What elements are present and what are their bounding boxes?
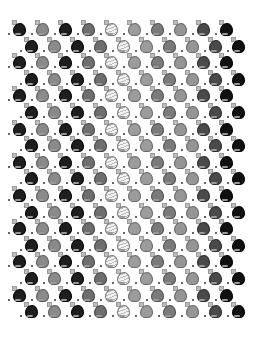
base-icon <box>84 299 90 301</box>
sprite-lightgray-icon <box>169 20 191 38</box>
sprite-black-icon <box>227 103 249 121</box>
dot-icon <box>181 182 183 184</box>
dot-icon <box>215 232 217 234</box>
dot-icon <box>227 282 229 284</box>
base-icon <box>96 182 102 184</box>
base-icon <box>130 199 136 201</box>
base-icon <box>176 133 182 135</box>
dot-icon <box>89 116 91 118</box>
dot-icon <box>77 33 79 35</box>
dot-icon <box>146 33 148 35</box>
base-icon <box>84 133 90 135</box>
dot-icon <box>169 99 171 101</box>
dot-icon <box>204 149 206 151</box>
sprite-black-icon <box>66 169 88 187</box>
dot-icon <box>215 66 217 68</box>
sprite-gray-icon <box>43 136 65 154</box>
sprite-black-icon <box>8 252 30 270</box>
sprite-black-icon <box>54 219 76 237</box>
dot-icon <box>77 99 79 101</box>
base-icon <box>188 116 194 118</box>
sprite-charcoal-icon <box>204 169 226 187</box>
base-icon <box>176 299 182 301</box>
sprite-midgray-icon <box>146 219 168 237</box>
sprite-black-icon <box>66 103 88 121</box>
base-icon <box>73 216 79 218</box>
base-icon <box>211 182 217 184</box>
dot-icon <box>169 199 171 201</box>
sprite-lightgray-icon <box>169 53 191 71</box>
dot-icon <box>158 315 160 317</box>
base-icon <box>61 265 67 267</box>
dot-icon <box>54 99 56 101</box>
dot-icon <box>54 299 56 301</box>
dot-icon <box>146 66 148 68</box>
base-icon <box>96 83 102 85</box>
base-icon <box>61 133 67 135</box>
dot-icon <box>54 166 56 168</box>
base-icon <box>130 166 136 168</box>
dot-icon <box>215 199 217 201</box>
sprite-darkgray-icon <box>89 302 111 320</box>
sprite-darkgray-icon <box>89 269 111 287</box>
base-icon <box>96 116 102 118</box>
sprite-black-icon <box>227 136 249 154</box>
base-icon <box>211 149 217 151</box>
dot-icon <box>192 199 194 201</box>
dot-icon <box>77 232 79 234</box>
sprite-black-icon <box>54 86 76 104</box>
dot-icon <box>158 116 160 118</box>
dot-icon <box>135 50 137 52</box>
dot-icon <box>8 33 10 35</box>
base-icon <box>50 182 56 184</box>
dot-icon <box>158 149 160 151</box>
dot-icon <box>227 249 229 251</box>
sprite-grid <box>0 0 265 340</box>
base-icon <box>234 116 240 118</box>
dot-icon <box>100 133 102 135</box>
dot-icon <box>158 282 160 284</box>
base-icon <box>38 232 44 234</box>
sprite-gray-icon <box>31 219 53 237</box>
dot-icon <box>112 216 114 218</box>
dot-icon <box>215 133 217 135</box>
dot-icon <box>135 216 137 218</box>
sprite-lightgray-icon <box>169 86 191 104</box>
base-icon <box>234 315 240 317</box>
base-icon <box>84 265 90 267</box>
dot-icon <box>89 315 91 317</box>
base-icon <box>107 199 113 201</box>
dot-icon <box>43 315 45 317</box>
dot-icon <box>204 83 206 85</box>
sprite-midgray-icon <box>158 269 180 287</box>
dot-icon <box>192 299 194 301</box>
base-icon <box>165 50 171 52</box>
dot-icon <box>43 216 45 218</box>
base-icon <box>84 33 90 35</box>
base-icon <box>15 232 21 234</box>
base-icon <box>222 99 228 101</box>
base-icon <box>84 232 90 234</box>
dot-icon <box>77 166 79 168</box>
dot-icon <box>146 265 148 267</box>
base-icon <box>73 315 79 317</box>
dot-icon <box>135 116 137 118</box>
dot-icon <box>66 83 68 85</box>
base-icon <box>234 83 240 85</box>
base-icon <box>15 133 21 135</box>
sprite-lightgray-icon <box>181 103 203 121</box>
base-icon <box>176 66 182 68</box>
dot-icon <box>20 182 22 184</box>
dot-icon <box>112 50 114 52</box>
dot-icon <box>135 315 137 317</box>
sprite-lightgray-icon <box>135 269 157 287</box>
dot-icon <box>112 83 114 85</box>
dot-icon <box>123 99 125 101</box>
dot-icon <box>158 216 160 218</box>
dot-icon <box>43 149 45 151</box>
dot-icon <box>77 199 79 201</box>
dot-icon <box>192 166 194 168</box>
base-icon <box>222 265 228 267</box>
dot-icon <box>89 83 91 85</box>
base-icon <box>61 199 67 201</box>
